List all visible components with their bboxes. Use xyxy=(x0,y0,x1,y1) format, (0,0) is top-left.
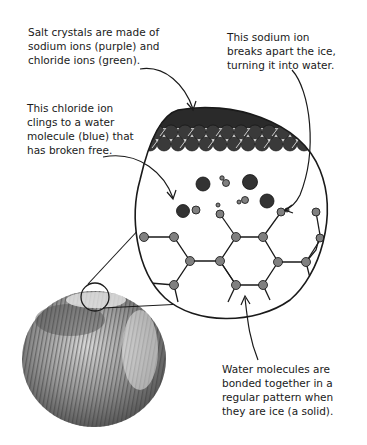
label-salt-crystals: Salt crystals are made of sodium ions (p… xyxy=(28,25,159,67)
label-water-molecules: Water molecules are bonded together in a… xyxy=(222,362,333,418)
label-chloride-ion: This chloride ion clings to a water mole… xyxy=(27,101,134,157)
salt-crystal-layer xyxy=(130,100,340,151)
arrow-salt xyxy=(140,68,193,109)
label-sodium-ion: This sodium ion breaks apart the ice, tu… xyxy=(227,30,336,72)
magnified-view xyxy=(130,100,340,330)
